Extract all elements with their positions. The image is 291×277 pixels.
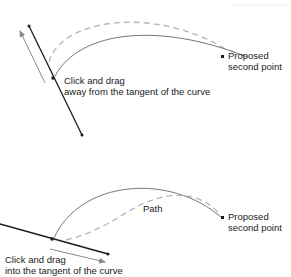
instruction-line: into the tangent of the curve	[5, 265, 123, 276]
path-label: Path	[143, 203, 163, 214]
top-endpoint-label: Proposed second point	[228, 50, 282, 72]
instruction-line: Click and drag	[64, 75, 210, 86]
instruction-line: away from the tangent of the curve	[64, 86, 210, 97]
instruction-line: Click and drag	[5, 254, 123, 265]
solid-curve	[55, 35, 247, 76]
path-label-text: Path	[143, 203, 163, 214]
solid-curve	[54, 188, 222, 238]
anchor-point[interactable]	[51, 238, 54, 241]
bottom-panel	[0, 188, 224, 262]
endpoint-label-line: second point	[228, 61, 282, 72]
dashed-curve	[49, 22, 245, 62]
top-drag-instruction: Click and drag away from the tangent of …	[64, 75, 210, 97]
handle-endpoint[interactable]	[28, 25, 31, 28]
endpoint-label-line: Proposed	[228, 50, 282, 61]
bottom-endpoint-label: Proposed second point	[228, 211, 282, 233]
diagram-canvas	[0, 0, 291, 277]
proposed-second-point[interactable]	[221, 55, 224, 58]
handle-endpoint[interactable]	[81, 134, 84, 137]
bottom-drag-instruction: Click and drag into the tangent of the c…	[5, 254, 123, 276]
endpoint-label-line: Proposed	[228, 211, 282, 222]
proposed-second-point[interactable]	[221, 216, 224, 219]
endpoint-label-line: second point	[228, 222, 282, 233]
drag-arrow	[20, 31, 45, 83]
anchor-point[interactable]	[52, 77, 55, 80]
